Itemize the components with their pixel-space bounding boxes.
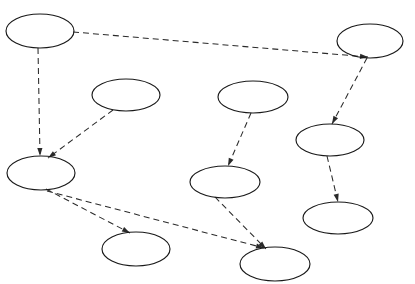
edge-line — [228, 113, 251, 166]
graph-edge — [37, 48, 42, 156]
graph-node[interactable] — [6, 14, 74, 48]
graph-node[interactable] — [296, 124, 364, 156]
node-ellipse[interactable] — [240, 247, 310, 281]
graph-node[interactable] — [190, 166, 260, 198]
edge-arrowhead-icon — [228, 158, 234, 166]
graph-node[interactable] — [7, 156, 75, 190]
graph-edge — [327, 156, 339, 202]
edge-line — [215, 197, 266, 249]
graph-node[interactable] — [92, 79, 160, 111]
graph-edge — [48, 110, 113, 158]
edge-arrowhead-icon — [37, 148, 42, 156]
edge-layer — [37, 32, 368, 249]
node-ellipse[interactable] — [337, 24, 403, 58]
edge-line — [73, 32, 368, 57]
edge-line — [332, 58, 367, 124]
graph-node[interactable] — [218, 81, 288, 113]
graph-edge — [332, 58, 367, 124]
node-ellipse[interactable] — [296, 124, 364, 156]
edge-line — [38, 48, 40, 156]
node-ellipse[interactable] — [102, 232, 170, 266]
graph-edge — [215, 197, 266, 249]
graph-svg — [0, 0, 415, 284]
graph-edge — [228, 113, 251, 166]
graph-node[interactable] — [337, 24, 403, 58]
graph-node[interactable] — [240, 247, 310, 281]
graph-node[interactable] — [102, 232, 170, 266]
node-ellipse[interactable] — [218, 81, 288, 113]
node-ellipse[interactable] — [7, 156, 75, 190]
edge-line — [46, 189, 130, 233]
node-ellipse[interactable] — [190, 166, 260, 198]
graph-canvas — [0, 0, 415, 284]
node-ellipse[interactable] — [92, 79, 160, 111]
graph-edge — [73, 32, 368, 59]
graph-node[interactable] — [303, 202, 373, 234]
graph-edge — [47, 191, 264, 248]
node-ellipse[interactable] — [6, 14, 74, 48]
node-ellipse[interactable] — [303, 202, 373, 234]
node-layer — [6, 14, 403, 281]
edge-arrowhead-icon — [334, 194, 339, 202]
edge-line — [48, 110, 113, 158]
edge-arrowhead-icon — [332, 116, 338, 124]
edge-line — [47, 191, 264, 248]
graph-edge — [46, 189, 130, 233]
